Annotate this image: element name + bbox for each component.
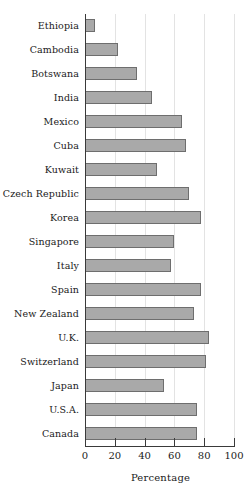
x-tick-label: 40 [130, 450, 160, 461]
category-label: Singapore [1, 236, 79, 247]
gridline [234, 14, 235, 446]
bar [85, 211, 201, 224]
bar [85, 307, 194, 320]
bar-row [85, 206, 234, 230]
category-label: Ethiopia [1, 20, 79, 31]
bar [85, 355, 206, 368]
bar-row [85, 134, 234, 158]
x-tick-label: 80 [189, 450, 219, 461]
category-label: Switzerland [1, 356, 79, 367]
bar-row [85, 38, 234, 62]
category-label: Mexico [1, 116, 79, 127]
x-tick-mark [145, 438, 146, 447]
bar-row [85, 182, 234, 206]
bar-row [85, 422, 234, 446]
category-label: New Zealand [1, 308, 79, 319]
bar-chart-figure: Percentage EthiopiaCambodiaBotswanaIndia… [0, 0, 251, 499]
category-label: Spain [1, 284, 79, 295]
x-tick-label: 20 [100, 450, 130, 461]
category-label: U.K. [1, 332, 79, 343]
bar-row [85, 86, 234, 110]
bar [85, 67, 137, 80]
x-tick-mark [234, 438, 235, 447]
bar [85, 43, 118, 56]
y-axis-line [85, 14, 86, 446]
bar-row [85, 254, 234, 278]
category-label: Botswana [1, 68, 79, 79]
category-label: Italy [1, 260, 79, 271]
category-label: Kuwait [1, 164, 79, 175]
bar [85, 403, 197, 416]
category-label: Cambodia [1, 44, 79, 55]
bar [85, 19, 95, 32]
x-tick-mark [174, 438, 175, 447]
plot-area [85, 14, 234, 446]
x-tick-mark [204, 438, 205, 447]
bar [85, 331, 209, 344]
bar [85, 427, 197, 440]
x-tick-mark [85, 438, 86, 447]
bar-row [85, 62, 234, 86]
x-axis-title: Percentage [0, 472, 251, 483]
category-label: Korea [1, 212, 79, 223]
bar-row [85, 278, 234, 302]
category-label: Canada [1, 428, 79, 439]
x-tick-label: 60 [159, 450, 189, 461]
bar [85, 283, 201, 296]
bar [85, 235, 174, 248]
bar [85, 259, 171, 272]
bar [85, 91, 152, 104]
x-tick-label: 100 [219, 450, 249, 461]
x-tick-mark [115, 438, 116, 447]
bar-row [85, 230, 234, 254]
bar-row [85, 302, 234, 326]
bar [85, 379, 164, 392]
bar-row [85, 398, 234, 422]
bar [85, 163, 157, 176]
x-tick-label: 0 [70, 450, 100, 461]
category-label: India [1, 92, 79, 103]
bar [85, 115, 182, 128]
bar-row [85, 14, 234, 38]
bar-row [85, 374, 234, 398]
x-axis-line [85, 446, 235, 447]
category-label: U.S.A. [1, 404, 79, 415]
bar [85, 139, 186, 152]
bar-row [85, 110, 234, 134]
category-label: Czech Republic [1, 188, 79, 199]
bar-row [85, 158, 234, 182]
bar-row [85, 350, 234, 374]
category-label: Japan [1, 380, 79, 391]
bar-row [85, 326, 234, 350]
category-label: Cuba [1, 140, 79, 151]
bar [85, 187, 189, 200]
